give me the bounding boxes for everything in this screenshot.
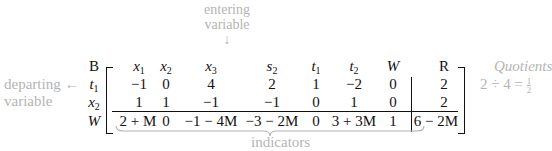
pivot-cell: 4 xyxy=(207,76,215,93)
cell: 0 xyxy=(312,94,320,111)
cell: 1 xyxy=(350,94,358,111)
cell: −1 xyxy=(203,94,219,111)
cell: −1 xyxy=(131,76,147,93)
rhs-header: R xyxy=(439,58,449,75)
rhs-cell: 2 xyxy=(440,94,448,111)
row-label-t1: t1 xyxy=(89,76,98,94)
cell: −1 xyxy=(264,94,280,111)
row-label-w: W xyxy=(88,113,101,130)
col-header-t1: t1 xyxy=(311,58,320,76)
entering-line-1: entering xyxy=(195,2,259,17)
basis-header: B xyxy=(89,58,99,75)
cell: 0 xyxy=(389,76,397,93)
quotient-fraction: 12 xyxy=(527,77,532,94)
cell: 0 xyxy=(162,76,170,93)
down-arrow-icon: ↓ xyxy=(195,32,259,47)
cell: 1 xyxy=(135,94,143,111)
cell: 1 xyxy=(312,76,320,93)
departing-line-2: variable xyxy=(4,93,79,110)
quotients-title: Quotients xyxy=(494,58,552,75)
departing-variable-label: departing ← variable xyxy=(4,76,79,110)
cell: 0 xyxy=(389,94,397,111)
col-header-w: W xyxy=(387,58,400,75)
col-header-x2: x2 xyxy=(160,58,172,76)
quotient-expression: 2 ÷ 4 = 12 xyxy=(480,76,531,94)
entering-line-2: variable xyxy=(195,17,259,32)
right-bracket xyxy=(458,67,465,134)
objective-row-divider xyxy=(112,111,458,112)
rhs-cell: 2 xyxy=(440,76,448,93)
row-label-x2: x2 xyxy=(88,94,100,112)
col-header-s2: s2 xyxy=(267,58,278,76)
col-header-x1: x1 xyxy=(133,58,145,76)
entering-variable-label: entering variable ↓ xyxy=(195,2,259,47)
left-bracket xyxy=(106,67,113,134)
departing-line-1: departing xyxy=(4,76,61,92)
cell: −2 xyxy=(346,76,362,93)
cell: 2 xyxy=(268,76,276,93)
rhs-divider xyxy=(411,77,412,132)
left-arrow-icon: ← xyxy=(64,76,79,92)
col-header-t2: t2 xyxy=(349,58,358,76)
cell: 1 xyxy=(162,94,170,111)
indicators-label: indicators xyxy=(251,134,310,151)
col-header-x3: x3 xyxy=(205,58,217,76)
